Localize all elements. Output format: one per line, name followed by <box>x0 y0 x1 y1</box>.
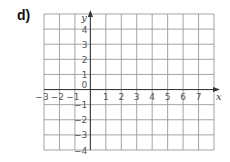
y-axis-label: y <box>80 12 87 23</box>
tick-labels: −3−2−112345674321−1−2−3−40xy <box>35 12 222 156</box>
x-tick-label: 6 <box>180 92 186 102</box>
x-tick-label: 4 <box>149 92 155 102</box>
x-tick-label: 5 <box>165 92 171 102</box>
y-tick-label: −1 <box>74 100 87 110</box>
x-tick-label: −3 <box>35 92 48 102</box>
x-tick-label: −2 <box>51 92 64 102</box>
y-tick-label: 2 <box>82 55 88 65</box>
x-tick-label: 3 <box>134 92 140 102</box>
x-tick-label: 2 <box>118 92 124 102</box>
axes <box>44 10 220 150</box>
y-tick-label: −2 <box>74 115 87 125</box>
y-tick-label: 4 <box>82 25 88 35</box>
origin-label: 0 <box>81 80 87 90</box>
grid-lines <box>44 14 214 150</box>
y-tick-label: 3 <box>82 40 88 50</box>
y-axis-arrow-icon <box>88 10 93 17</box>
y-tick-label: 1 <box>82 70 88 80</box>
x-tick-label: 1 <box>103 92 109 102</box>
coordinate-grid: −3−2−112345674321−1−2−3−40xy <box>0 0 230 162</box>
x-axis-label: x <box>216 91 222 102</box>
x-tick-label: 7 <box>196 92 202 102</box>
y-tick-label: −3 <box>74 130 87 140</box>
y-tick-label: −4 <box>74 146 88 156</box>
